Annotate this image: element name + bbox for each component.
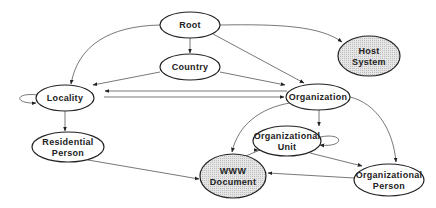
edge-organizational-person-to-www-document	[268, 173, 354, 178]
node-locality: Locality	[36, 85, 94, 111]
node-organizational-person: OrganizationalPerson	[354, 164, 424, 196]
node-residential-person: ResidentialPerson	[32, 132, 104, 162]
edge-locality-to-locality	[20, 95, 38, 104]
edge-root-to-organization	[213, 34, 304, 83]
node-root: Root	[160, 12, 220, 38]
diagram-canvas: RootCountryHostSystemLocalityOrganizatio…	[0, 0, 436, 208]
node-label: Person	[52, 148, 84, 158]
node-label: Country	[172, 62, 209, 72]
node-label: Document	[210, 177, 256, 187]
edge-root-to-locality	[71, 25, 160, 84]
node-organizational-unit: OrganizationalUnit	[253, 126, 321, 156]
node-label: Host	[358, 46, 379, 56]
node-host-system: HostSystem	[338, 36, 400, 76]
edge-organizational-unit-to-organizational-person	[310, 153, 362, 166]
node-country: Country	[160, 54, 220, 80]
node-label: Residential	[42, 137, 93, 147]
edge-organization-to-organizational-person	[350, 97, 396, 162]
node-label: WWW	[220, 166, 247, 176]
node-label: Organizational	[254, 131, 321, 141]
node-label: Organization	[289, 92, 348, 102]
edge-country-to-organization	[220, 72, 285, 85]
nodes-layer: RootCountryHostSystemLocalityOrganizatio…	[32, 12, 424, 198]
edge-residential-person-to-www-document	[88, 160, 199, 179]
edge-organizational-unit-to-organizational-unit	[320, 136, 339, 145]
node-label: Unit	[278, 142, 297, 152]
edge-root-to-host-system	[220, 25, 342, 42]
node-label: Person	[373, 181, 405, 191]
node-label: Locality	[47, 93, 83, 103]
node-label: Root	[179, 20, 201, 30]
edge-country-to-locality	[93, 72, 160, 85]
node-label: System	[352, 57, 386, 67]
node-organization: Organization	[286, 84, 350, 110]
node-www-document: WWWDocument	[200, 154, 266, 198]
node-label: Organizational	[356, 170, 423, 180]
